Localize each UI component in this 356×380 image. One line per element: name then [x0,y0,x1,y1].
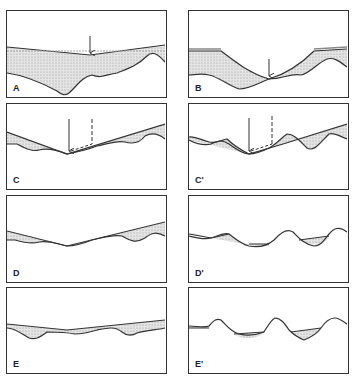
profile-diagram-c-prime [189,104,347,188]
panel-d: D [6,195,167,283]
profile-diagram-b [189,11,347,96]
panel-c-prime: C' [188,103,349,190]
profile-diagram-a [7,11,165,96]
panel-label-e: E [13,359,19,369]
panel-e: E [6,287,167,374]
panel-label-a: A [13,83,20,93]
panel-a: A [6,10,167,98]
panel-label-c-prime: C' [195,175,204,185]
panel-label-e-prime: E' [195,359,203,369]
profile-diagram-e [7,288,165,372]
panel-label-c: C [13,175,20,185]
panel-b: B [188,10,349,98]
panel-d-prime: D' [188,195,349,283]
profile-diagram-c [7,104,165,188]
profile-diagram-e-prime [189,288,347,372]
profile-diagram-d-prime [189,196,347,281]
panel-label-b: B [195,83,202,93]
panel-label-d: D [13,268,20,278]
panel-label-d-prime: D' [195,268,204,278]
panel-e-prime: E' [188,287,349,374]
panel-c: C [6,103,167,190]
profile-diagram-d [7,196,165,281]
